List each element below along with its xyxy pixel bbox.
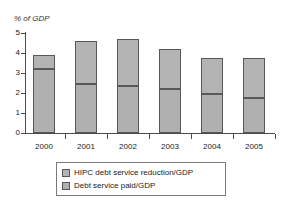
y-tick-label: 5: [8, 29, 20, 37]
bar-segment-hipc: [33, 55, 55, 69]
bar-2000: [33, 0, 55, 206]
bar-segment-paid: [159, 89, 181, 133]
y-tick: [21, 33, 26, 34]
bar-segment-hipc: [201, 58, 223, 94]
bar-segment-paid: [33, 69, 55, 133]
y-tick-label: 0: [8, 129, 20, 137]
bar-segment-hipc: [75, 41, 97, 84]
x-tick: [191, 134, 192, 139]
bar-segment-paid: [201, 94, 223, 133]
x-tick: [107, 134, 108, 139]
y-tick: [21, 133, 26, 134]
chart-legend: HIPC debt service reduction/GDP Debt ser…: [56, 162, 226, 196]
bar-segment-hipc: [117, 39, 139, 86]
x-tick: [233, 134, 234, 139]
y-tick-label: 3: [8, 69, 20, 77]
bar-segment-paid: [75, 84, 97, 133]
y-tick-label: 1: [8, 109, 20, 117]
bar-segment-paid: [243, 98, 265, 133]
bar-segment-hipc: [159, 49, 181, 89]
y-tick-label: 2: [8, 89, 20, 97]
legend-label-hipc: HIPC debt service reduction/GDP: [74, 168, 193, 177]
legend-item-hipc: HIPC debt service reduction/GDP: [62, 166, 220, 179]
x-tick: [149, 134, 150, 139]
y-tick: [21, 73, 26, 74]
bar-segment-paid: [117, 86, 139, 133]
y-tick: [21, 113, 26, 114]
y-axis-line: [25, 32, 26, 134]
bar-segment-hipc: [243, 58, 265, 98]
legend-item-paid: Debt service paid/GDP: [62, 179, 220, 192]
x-tick: [65, 134, 66, 139]
y-tick: [21, 93, 26, 94]
x-axis-line: [25, 133, 275, 134]
y-tick-label: 4: [8, 49, 20, 57]
x-tick: [275, 134, 276, 139]
y-tick: [21, 53, 26, 54]
bar-2005: [243, 0, 265, 206]
chart-container: % of GDP 012345 200020012002200320042005…: [0, 0, 282, 206]
legend-label-paid: Debt service paid/GDP: [74, 181, 155, 190]
legend-swatch-hipc-icon: [62, 169, 70, 177]
legend-swatch-paid-icon: [62, 182, 70, 190]
